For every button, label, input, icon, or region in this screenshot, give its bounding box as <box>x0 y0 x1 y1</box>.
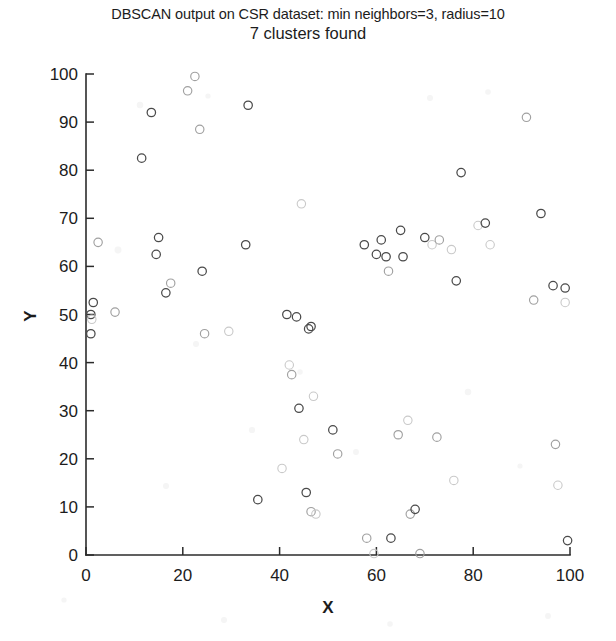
data-point <box>372 250 380 258</box>
x-ticklabel-0: 0 <box>81 566 90 585</box>
x-ticklabel-100: 100 <box>556 566 584 585</box>
data-point <box>530 296 538 304</box>
data-point <box>450 476 458 484</box>
data-point <box>300 435 308 443</box>
data-point <box>561 298 569 306</box>
data-point <box>452 277 460 285</box>
y-ticklabel-100: 100 <box>50 65 78 84</box>
data-point <box>225 327 233 335</box>
data-point <box>537 209 545 217</box>
data-point <box>333 450 341 458</box>
data-point <box>387 534 395 542</box>
data-point <box>162 289 170 297</box>
scatter-plot: 100 90 80 70 60 50 40 30 20 10 0 0 20 40… <box>0 0 616 641</box>
data-point <box>154 233 162 241</box>
data-point <box>147 108 155 116</box>
y-ticklabel-10: 10 <box>59 498 78 517</box>
x-ticklabel-60: 60 <box>367 566 386 585</box>
data-point <box>307 322 315 330</box>
data-point <box>242 241 250 249</box>
data-point <box>382 253 390 261</box>
y-ticklabel-70: 70 <box>59 209 78 228</box>
data-point <box>377 236 385 244</box>
x-axis-tick-labels: 0 20 40 60 80 100 <box>81 566 584 585</box>
data-point <box>198 267 206 275</box>
data-point <box>399 253 407 261</box>
y-ticklabel-50: 50 <box>59 306 78 325</box>
data-point <box>292 313 300 321</box>
data-point <box>416 549 424 557</box>
data-point <box>304 325 312 333</box>
data-point <box>433 433 441 441</box>
y-axis-label: Y <box>21 310 40 322</box>
data-point <box>312 510 320 518</box>
data-point <box>551 440 559 448</box>
x-ticklabel-20: 20 <box>173 566 192 585</box>
data-point <box>167 279 175 287</box>
data-point <box>549 281 557 289</box>
x-ticklabel-80: 80 <box>464 566 483 585</box>
x-axis-ticks <box>86 547 570 555</box>
data-point <box>447 245 455 253</box>
data-point <box>88 315 96 323</box>
data-point <box>486 241 494 249</box>
data-point <box>111 308 119 316</box>
y-ticklabel-0: 0 <box>69 546 78 565</box>
y-axis-tick-labels: 100 90 80 70 60 50 40 30 20 10 0 <box>50 65 78 565</box>
data-point <box>360 241 368 249</box>
data-point <box>183 87 191 95</box>
data-point <box>196 125 204 133</box>
data-point <box>288 370 296 378</box>
data-points-layer <box>87 72 572 558</box>
y-ticklabel-60: 60 <box>59 257 78 276</box>
x-ticklabel-40: 40 <box>270 566 289 585</box>
data-point <box>87 330 95 338</box>
data-point <box>396 226 404 234</box>
data-point <box>307 508 315 516</box>
data-point <box>411 505 419 513</box>
data-point <box>309 392 317 400</box>
y-ticklabel-30: 30 <box>59 402 78 421</box>
data-point <box>137 154 145 162</box>
data-point <box>394 431 402 439</box>
data-point <box>200 330 208 338</box>
data-point <box>406 510 414 518</box>
data-point <box>283 310 291 318</box>
data-point <box>152 250 160 258</box>
data-point <box>363 534 371 542</box>
data-point <box>404 416 412 424</box>
y-ticklabel-40: 40 <box>59 354 78 373</box>
data-point <box>254 495 262 503</box>
data-point <box>94 238 102 246</box>
data-point <box>481 219 489 227</box>
data-point <box>435 236 443 244</box>
y-ticklabel-90: 90 <box>59 113 78 132</box>
data-point <box>297 200 305 208</box>
x-axis-label: X <box>322 598 334 617</box>
data-point <box>278 464 286 472</box>
figure-canvas: DBSCAN output on CSR dataset: min neighb… <box>0 0 616 641</box>
scan-speckle <box>61 89 551 627</box>
data-point <box>522 113 530 121</box>
data-point <box>295 404 303 412</box>
y-ticklabel-20: 20 <box>59 450 78 469</box>
y-ticklabel-80: 80 <box>59 161 78 180</box>
data-point <box>191 72 199 80</box>
data-point <box>554 481 562 489</box>
data-point <box>89 298 97 306</box>
data-point <box>563 536 571 544</box>
data-point <box>302 488 310 496</box>
data-point <box>244 101 252 109</box>
data-point <box>561 284 569 292</box>
data-point <box>457 168 465 176</box>
data-point <box>421 233 429 241</box>
data-point <box>329 426 337 434</box>
data-point <box>384 267 392 275</box>
data-point <box>285 361 293 369</box>
